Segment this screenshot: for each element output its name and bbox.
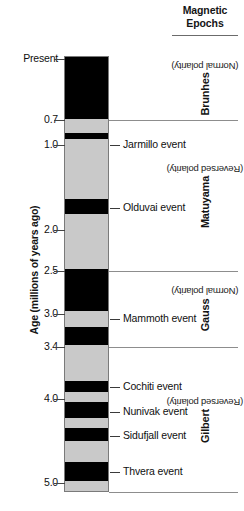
polarity-band-brunhes-normal bbox=[65, 57, 108, 119]
axis-tick-mark-5 bbox=[54, 314, 65, 315]
polarity-column bbox=[64, 56, 109, 492]
axis-tick-mark-8 bbox=[54, 483, 65, 484]
axis-tick-mark-4 bbox=[54, 271, 65, 272]
epoch-block-matuyama: Matuyama(Reversed polarity) bbox=[168, 120, 242, 271]
axis-tick-mark-7 bbox=[54, 399, 65, 400]
axis-tick-label-8: 5.0 bbox=[44, 476, 58, 488]
axis-tick-label-4: 2.5 bbox=[44, 264, 58, 276]
magnetic-polarity-timescale-figure: Magnetic Epochs Age (millions of years a… bbox=[0, 0, 244, 511]
axis-tick-label-1: 0.7 bbox=[44, 113, 58, 125]
epoch-boundary-gilbert-bottom bbox=[109, 492, 238, 493]
epoch-block-gauss: Gauss(Normal polarity) bbox=[168, 271, 242, 347]
polarity-band-gauss-normal-1 bbox=[65, 269, 108, 311]
axis-tick-mark-2 bbox=[54, 145, 65, 146]
magnetic-epochs-header: Magnetic Epochs bbox=[168, 4, 242, 29]
epoch-name-gilbert: Gilbert bbox=[199, 408, 211, 442]
event-leader-line-6 bbox=[110, 472, 120, 473]
epoch-name-gauss: Gauss bbox=[199, 299, 211, 332]
epoch-name-matuyama: Matuyama bbox=[199, 175, 211, 227]
epoch-polarity-gauss: (Normal polarity) bbox=[172, 287, 239, 297]
axis-tick-label-2: 1.0 bbox=[44, 138, 58, 150]
magnetic-epochs-header-line1: Magnetic bbox=[168, 4, 242, 17]
polarity-band-cochiti-event bbox=[65, 381, 108, 392]
polarity-band-thvera-event bbox=[65, 462, 108, 481]
polarity-band-sidufjall-event bbox=[65, 428, 108, 442]
epoch-name-brunhes: Brunhes bbox=[199, 72, 211, 115]
epoch-polarity-matuyama: (Reversed polarity) bbox=[167, 163, 243, 173]
event-leader-line-4 bbox=[110, 412, 120, 413]
y-axis-title: Age (millions of years ago) bbox=[28, 170, 40, 370]
event-leader-line-1 bbox=[110, 208, 120, 209]
axis-tick-label-7: 4.0 bbox=[44, 392, 58, 404]
epoch-block-gilbert: Gilbert(Reversed polarity) bbox=[168, 347, 242, 492]
axis-tick-label-0: Present bbox=[23, 52, 58, 64]
axis-tick-label-3: 2.0 bbox=[44, 223, 58, 235]
event-leader-line-2 bbox=[110, 319, 120, 320]
event-leader-line-0 bbox=[110, 145, 120, 146]
epoch-block-brunhes: Brunhes(Normal polarity) bbox=[168, 56, 242, 120]
epoch-polarity-brunhes: (Normal polarity) bbox=[172, 60, 239, 70]
polarity-band-gauss-normal-2 bbox=[65, 327, 108, 346]
magnetic-epochs-header-rule bbox=[172, 35, 238, 36]
event-leader-line-3 bbox=[110, 387, 120, 388]
axis-tick-label-5: 3.0 bbox=[44, 307, 58, 319]
epoch-polarity-gilbert: (Reversed polarity) bbox=[167, 396, 243, 406]
axis-tick-label-6: 3.4 bbox=[44, 340, 58, 352]
polarity-band-jaramillo-event bbox=[65, 133, 108, 139]
magnetic-epochs-header-line2: Epochs bbox=[168, 17, 242, 30]
polarity-band-olduvai-event bbox=[65, 199, 108, 214]
event-leader-line-5 bbox=[110, 436, 120, 437]
polarity-band-nunivak-event bbox=[65, 402, 108, 418]
axis-tick-mark-1 bbox=[54, 120, 65, 121]
axis-tick-mark-3 bbox=[54, 230, 65, 231]
axis-tick-mark-0 bbox=[54, 59, 65, 60]
axis-tick-mark-6 bbox=[54, 347, 65, 348]
